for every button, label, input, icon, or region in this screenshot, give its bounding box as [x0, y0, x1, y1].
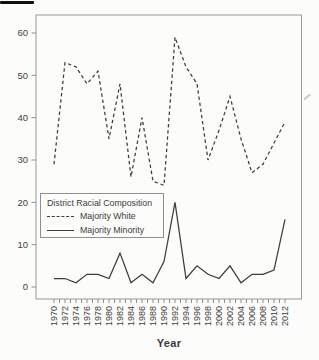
legend-entry-majority-white: Majority White: [47, 209, 163, 223]
x-tick-label: 1990: [159, 306, 169, 326]
plot-frame: [36, 15, 302, 299]
x-tick-label: 1992: [170, 306, 180, 326]
y-tick-label: 0: [23, 281, 28, 292]
x-tick-label: 1988: [148, 306, 158, 326]
x-tick-label: 2004: [236, 306, 246, 326]
figure-canvas: 0102030405060197019721974197619781980198…: [0, 0, 319, 360]
x-tick-label: 1986: [137, 306, 147, 326]
legend-entry-label: Majority White: [80, 211, 136, 221]
x-tick-label: 1972: [60, 306, 70, 326]
line-chart: 0102030405060197019721974197619781980198…: [0, 0, 319, 360]
legend-title: District Racial Composition: [47, 198, 163, 209]
x-tick-label: 1982: [115, 306, 125, 326]
series-line-majority-white: [54, 37, 285, 185]
x-tick-label: 1994: [181, 306, 191, 326]
x-tick-label: 2000: [214, 306, 224, 326]
x-tick-label: 1974: [71, 306, 81, 326]
y-tick-label: 60: [17, 27, 28, 38]
x-tick-label: 1980: [104, 306, 114, 326]
x-tick-label: 2006: [247, 306, 257, 326]
x-tick-label: 1976: [82, 306, 92, 326]
x-tick-label: 2010: [269, 306, 279, 326]
y-tick-label: 10: [17, 239, 28, 250]
y-tick-label: 20: [17, 197, 28, 208]
x-tick-label: 1984: [126, 306, 136, 326]
x-tick-label: 1978: [93, 306, 103, 326]
x-tick-label: 1996: [192, 306, 202, 326]
legend: District Racial Composition Majority Whi…: [40, 193, 164, 238]
legend-entry-majority-minority: Majority Minority: [47, 223, 163, 237]
x-tick-label: 1998: [203, 306, 213, 326]
solid-line-swatch-icon: [47, 230, 74, 231]
dashed-line-swatch-icon: [47, 216, 74, 217]
x-tick-label: 2012: [280, 306, 290, 326]
legend-entry-label: Majority Minority: [80, 225, 144, 235]
x-axis-title: Year: [36, 337, 302, 349]
y-tick-label: 50: [17, 70, 28, 81]
x-tick-label: 2008: [258, 306, 268, 326]
x-tick-label: 1970: [49, 306, 59, 326]
y-tick-label: 40: [17, 112, 28, 123]
x-tick-label: 2002: [225, 306, 235, 326]
y-tick-label: 30: [17, 154, 28, 165]
